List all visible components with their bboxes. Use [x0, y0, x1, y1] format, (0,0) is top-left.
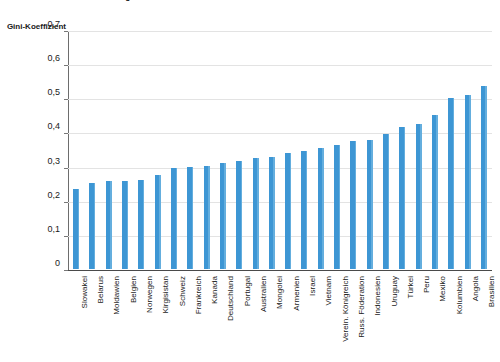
y-axis-tick-label: 0,2 [20, 190, 60, 200]
gridline [68, 202, 492, 203]
y-axis-tick-label: 0 [20, 258, 60, 268]
bar [106, 181, 112, 269]
gridline [68, 133, 492, 134]
x-axis-category-label: Australien [259, 276, 268, 312]
gridline [68, 31, 492, 32]
x-axis-category-label: Brasilien [487, 276, 496, 307]
x-axis-category-label: Belarus [96, 276, 105, 303]
bar [171, 168, 177, 269]
bar [399, 127, 405, 269]
y-axis-tick-label: 0,5 [20, 87, 60, 97]
x-axis-line [68, 270, 492, 271]
y-axis-tick [64, 202, 68, 203]
x-axis-category-label: Frankreich [194, 276, 203, 314]
y-axis-tick-label: 0,6 [20, 53, 60, 63]
x-axis-category-label: Vietnam [324, 276, 333, 306]
x-axis-category-label: Deutschland [226, 276, 235, 321]
x-axis-category-label: Kanada [210, 276, 219, 304]
bar [122, 181, 128, 269]
x-axis-category-label: Peru [422, 276, 431, 293]
y-axis-tick-label: 0,7 [20, 19, 60, 29]
plot-area [68, 31, 492, 270]
bar [432, 115, 438, 269]
x-axis-category-label: Indonesien [373, 276, 382, 316]
x-axis-category-label: Kirgisistan [161, 276, 170, 313]
y-axis-tick [64, 65, 68, 66]
y-axis-tick-label: 0,3 [20, 156, 60, 166]
y-axis-tick [64, 168, 68, 169]
bar [367, 140, 373, 269]
x-axis-category-label: Russ. Föderation [357, 276, 366, 338]
bar-chart-figure: Gini-Koeffizient 00,10,20,30,40,50,60,7S… [0, 0, 500, 362]
y-axis-tick [64, 236, 68, 237]
x-axis-category-label: Türkei [406, 276, 415, 299]
y-axis-tick [64, 133, 68, 134]
bar [204, 166, 210, 269]
x-axis-category-label: Uruguay [390, 276, 399, 307]
gridline [68, 236, 492, 237]
bar [73, 189, 79, 269]
x-axis-category-label: Slowakei [80, 276, 89, 308]
bar [269, 157, 275, 269]
x-axis-category-label: Israel [308, 276, 317, 296]
bar [383, 134, 389, 269]
bar [318, 148, 324, 269]
bar [236, 161, 242, 269]
x-axis-category-label: Belgien [129, 276, 138, 303]
x-axis-category-label: Angola [471, 276, 480, 301]
gridline [68, 168, 492, 169]
bar [89, 183, 95, 269]
bar [138, 180, 144, 269]
x-axis-category-label: Kolumbien [455, 276, 464, 314]
bar [448, 98, 454, 269]
gridline [68, 99, 492, 100]
x-axis-category-label: Mexiko [438, 276, 447, 302]
x-axis-category-label: Mongolei [275, 276, 284, 309]
x-axis-category-label: Verein. Königreich [341, 276, 350, 342]
bar [301, 151, 307, 269]
bar [350, 141, 356, 269]
bar [481, 86, 487, 269]
gridline [68, 65, 492, 66]
bar [465, 95, 471, 269]
x-axis-category-label: Portugal [243, 276, 252, 306]
bar [187, 167, 193, 269]
x-axis-category-label: Armenien [292, 276, 301, 311]
x-axis-category-label: Schweiz [178, 276, 187, 306]
y-axis-tick [64, 99, 68, 100]
y-axis-tick [64, 270, 68, 271]
bar [334, 145, 340, 269]
y-axis-tick-label: 0,1 [20, 224, 60, 234]
x-axis-category-label: Norwegen [145, 276, 154, 313]
bar [416, 124, 422, 269]
x-axis-category-label: Moldawien [112, 276, 121, 315]
bar [220, 163, 226, 269]
y-axis-tick-label: 0,4 [20, 121, 60, 131]
bar [155, 175, 161, 269]
bar [253, 158, 259, 269]
y-axis-tick [64, 31, 68, 32]
bar [285, 153, 291, 269]
